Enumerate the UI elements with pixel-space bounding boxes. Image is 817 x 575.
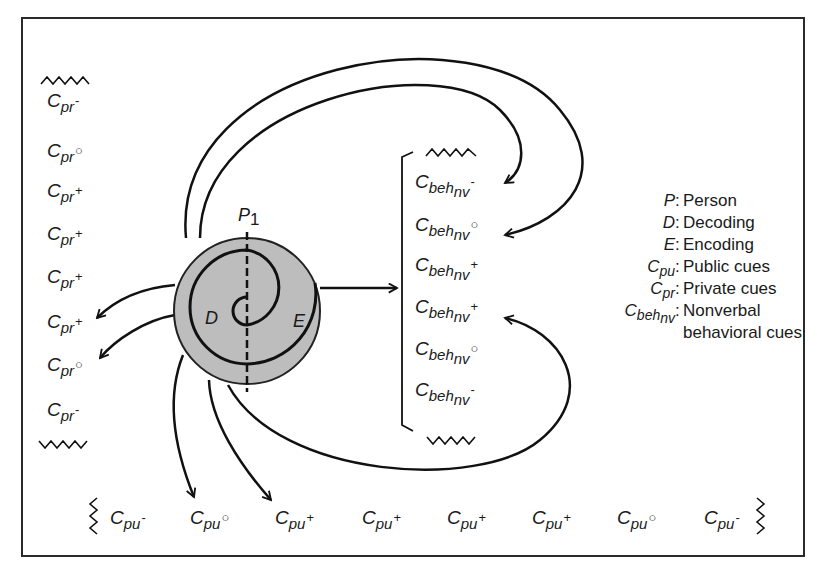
arrow-to-private-cue-2 [100, 315, 175, 358]
cue-subscript: pr [61, 188, 74, 205]
cue-sub-subscript: nv [454, 350, 470, 367]
cue-base: C [415, 171, 429, 192]
cue-base: C [415, 214, 429, 235]
legend-key-subscript: pu [659, 263, 675, 279]
cue-subscript: pr [61, 274, 74, 291]
cue-subscript: pu [631, 515, 648, 532]
cue-subscript: beh [429, 304, 454, 321]
private-cue: Cpr○ [47, 355, 83, 374]
legend-value: Person [683, 190, 737, 212]
legend-value-continuation: behavioral cues [683, 322, 802, 344]
legend-key: Cbehnv [560, 300, 675, 322]
cue-sub-subscript: nv [454, 391, 470, 408]
behavioral-cue: Cbehnv○ [415, 339, 478, 358]
cue-valence: ○ [471, 341, 479, 356]
cue-base: C [47, 90, 61, 111]
legend-key-base: D [663, 213, 675, 232]
legend-colon: : [675, 256, 683, 278]
legend-key-base: C [647, 257, 659, 276]
arrow-to-public-cue-2 [209, 380, 271, 500]
legend: P:PersonD:DecodingE:EncodingCpu:Public c… [560, 190, 802, 344]
cue-subscript: pu [376, 515, 393, 532]
cue-base: C [47, 399, 61, 420]
behavioral-cues-bracket [402, 152, 413, 431]
person-label: P1 [238, 205, 259, 226]
cue-valence: - [471, 174, 475, 189]
cue-valence: + [75, 226, 83, 241]
legend-key-base: P [664, 191, 675, 210]
cue-base: C [415, 338, 429, 359]
arrow-to-public-cue-1 [174, 355, 194, 497]
public-cue: Cpu+ [275, 508, 314, 527]
public-cue: Cpu- [110, 508, 146, 527]
cue-valence: + [471, 257, 479, 272]
cue-base: C [532, 507, 546, 528]
legend-value: Decoding [683, 212, 755, 234]
person-label-main: P [238, 205, 250, 225]
cue-base: C [275, 507, 289, 528]
cue-valence: + [393, 510, 401, 525]
cue-valence: ○ [75, 357, 83, 372]
legend-value: Nonverbal [683, 300, 761, 322]
legend-key: Cpr [560, 278, 675, 300]
behavioral-cue: Cbehnv+ [415, 297, 478, 316]
cue-subscript: pr [61, 231, 74, 248]
cue-valence: + [75, 269, 83, 284]
legend-key: E [560, 234, 675, 256]
behavioral-cue: Cbehnv+ [415, 255, 478, 274]
public-cue: Cpu○ [617, 508, 656, 527]
cue-subscript: beh [429, 179, 454, 196]
behavioral-cue: Cbehnv- [415, 380, 475, 399]
cue-valence: + [75, 183, 83, 198]
public-cue: Cpu- [704, 508, 740, 527]
legend-key-sub-subscript: nv [660, 310, 675, 326]
person-label-sub: 1 [250, 210, 259, 229]
cue-subscript: pr [61, 362, 74, 379]
legend-key-base: C [650, 279, 662, 298]
cue-sub-subscript: nv [454, 226, 470, 243]
legend-colon: : [675, 278, 683, 300]
cue-subscript: pr [61, 148, 74, 165]
legend-key-base: E [664, 235, 675, 254]
legend-key-spacer [560, 322, 675, 344]
zigzag-behavioral-bottom [427, 437, 475, 444]
cue-base: C [362, 507, 376, 528]
behavioral-cue: Cbehnv○ [415, 215, 478, 234]
cue-base: C [704, 507, 718, 528]
legend-colon: : [675, 300, 683, 322]
legend-value: Encoding [683, 234, 754, 256]
legend-row-continuation: behavioral cues [560, 322, 802, 344]
cue-base: C [110, 507, 124, 528]
legend-colon: : [675, 212, 683, 234]
cue-subscript: pu [718, 515, 735, 532]
legend-row: P:Person [560, 190, 802, 212]
encoding-label: E [293, 311, 305, 332]
zigzag-private-bottom [39, 441, 87, 448]
cue-valence: + [75, 314, 83, 329]
cue-valence: - [471, 382, 475, 397]
cue-subscript: pu [461, 515, 478, 532]
cue-subscript: pr [61, 319, 74, 336]
cue-subscript: beh [429, 346, 454, 363]
cue-subscript: pu [289, 515, 306, 532]
cue-valence: + [478, 510, 486, 525]
legend-key: P [560, 190, 675, 212]
cue-base: C [415, 296, 429, 317]
public-cue: Cpu+ [447, 508, 486, 527]
cue-base: C [47, 354, 61, 375]
cue-valence: ○ [75, 143, 83, 158]
cue-valence: - [75, 93, 79, 108]
legend-row: Cpu:Public cues [560, 256, 802, 278]
private-cue: Cpr- [47, 91, 79, 110]
legend-colon-spacer [675, 322, 683, 344]
cue-base: C [190, 507, 204, 528]
private-cue: Cpr+ [47, 312, 83, 331]
private-cue: Cpr○ [47, 141, 83, 160]
cue-valence: + [563, 510, 571, 525]
private-cue: Cpr+ [47, 224, 83, 243]
cue-base: C [415, 254, 429, 275]
cue-base: C [617, 507, 631, 528]
legend-row: D:Decoding [560, 212, 802, 234]
cue-valence: ○ [648, 510, 656, 525]
legend-colon: : [675, 234, 683, 256]
